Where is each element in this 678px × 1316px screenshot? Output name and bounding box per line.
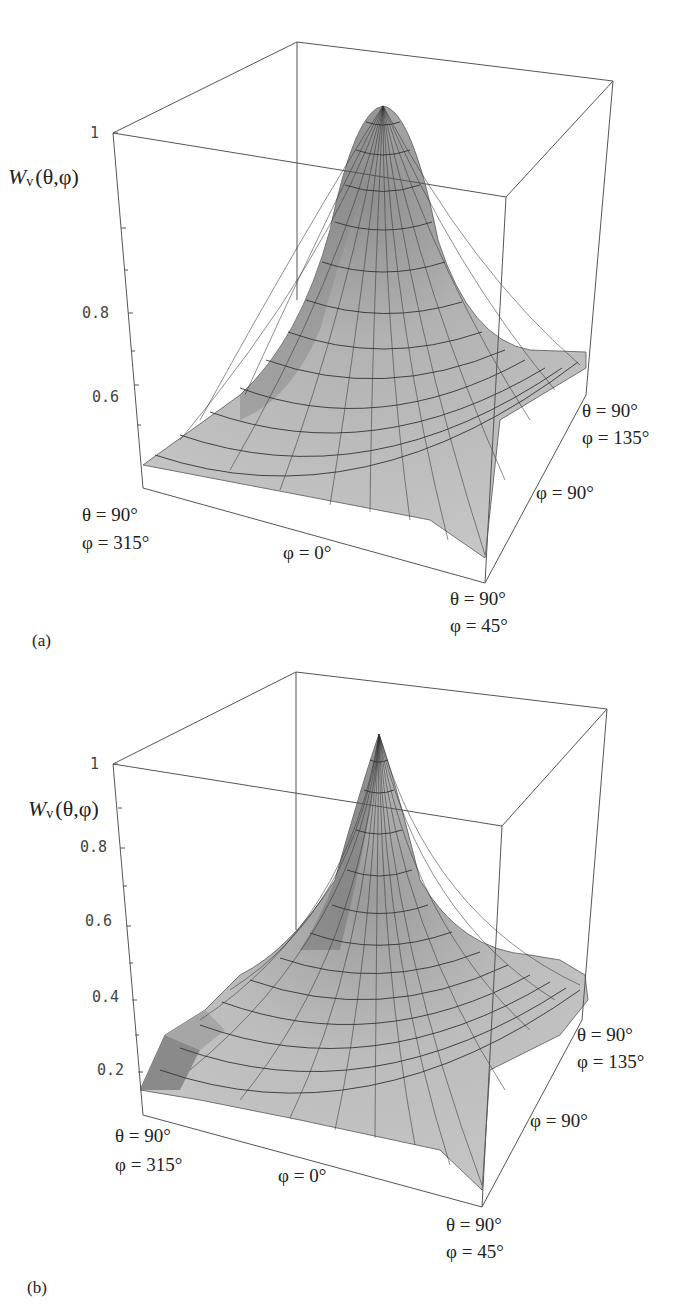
surface-b [140, 734, 588, 1190]
corner-label-315-phi: φ = 315° [115, 1154, 182, 1175]
z-tick-0.6: 0.6 [92, 388, 119, 406]
corner-label-45-phi: φ = 45° [446, 1241, 504, 1262]
z-tick-0.2: 0.2 [97, 1061, 124, 1079]
edge-label-phi-0: φ = 0° [283, 542, 331, 563]
z-axis-label: Wv(θ,φ) [8, 164, 79, 189]
z-axis-label: Wv(θ,φ) [28, 796, 99, 821]
corner-label-315-theta: θ = 90° [82, 504, 138, 525]
corner-label-135-phi: φ = 135° [577, 1051, 644, 1072]
corner-label-135-theta: θ = 90° [577, 1024, 633, 1045]
z-tick-1: 1 [90, 755, 99, 773]
z-tick-0.6: 0.6 [85, 912, 112, 930]
corner-label-45-theta: θ = 90° [446, 1214, 502, 1235]
corner-label-135-phi: φ = 135° [582, 427, 649, 448]
surface-plot-a: 1 0.8 0.6 Wv(θ,φ) θ = 90° φ = 315° φ = 0… [0, 0, 678, 658]
edge-label-phi-0: φ = 0° [278, 1165, 326, 1186]
z-tick-0.4: 0.4 [92, 988, 119, 1006]
z-tick-1: 1 [90, 124, 99, 142]
panel-a: 1 0.8 0.6 Wv(θ,φ) θ = 90° φ = 315° φ = 0… [0, 0, 678, 658]
corner-label-45-theta: θ = 90° [450, 588, 506, 609]
z-tick-0.8: 0.8 [80, 838, 107, 856]
edge-label-phi-90: φ = 90° [530, 1110, 588, 1131]
panel-b: 1 0.8 0.6 0.4 0.2 Wv(θ,φ) θ = 90° φ = 31… [0, 630, 678, 1288]
panel-tag-b: (b) [27, 1278, 47, 1297]
corner-label-315-theta: θ = 90° [115, 1125, 171, 1146]
edge-label-phi-90: φ = 90° [536, 482, 594, 503]
corner-label-135-theta: θ = 90° [582, 400, 638, 421]
z-axis-ticks-b [113, 764, 143, 1072]
surface-plot-b: 1 0.8 0.6 0.4 0.2 Wv(θ,φ) θ = 90° φ = 31… [0, 630, 678, 1316]
corner-label-315-phi: φ = 315° [82, 532, 149, 553]
z-tick-0.8: 0.8 [82, 304, 109, 322]
